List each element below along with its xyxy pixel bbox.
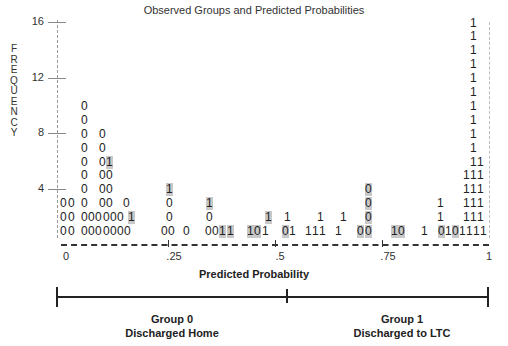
y-axis-label-letter: F	[9, 44, 19, 55]
group-0-symbol: 0	[206, 211, 214, 224]
x-tick-label-075: .75	[373, 250, 403, 262]
group-0-label: Group 0 Discharged Home	[72, 312, 272, 340]
y-axis-label-letter: U	[9, 86, 19, 97]
group-0-symbol: 0	[106, 197, 114, 210]
group-0-symbol: 0	[60, 225, 68, 238]
group-1-symbol: 1	[289, 225, 297, 238]
group-1-symbol: 1	[470, 100, 478, 113]
group-divider-line	[56, 296, 488, 298]
group-0-symbol: 0	[95, 225, 103, 238]
group-1-label: Group 1 Discharged to LTC	[302, 312, 502, 340]
group-0-symbol: 0	[81, 183, 89, 196]
group-0-symbol: 0	[365, 183, 373, 196]
group-1-symbol: 1	[284, 211, 292, 224]
group-0-subtitle: Discharged Home	[72, 326, 272, 340]
group-0-symbol: 0	[365, 211, 373, 224]
group-0-symbol: 0	[81, 114, 89, 127]
group-1-symbol: 1	[470, 114, 478, 127]
group-1-symbol: 1	[477, 197, 485, 210]
group-1-symbol: 1	[477, 169, 485, 182]
group-0-symbol: 0	[357, 225, 365, 238]
x-tick-label-1: 1	[474, 250, 504, 262]
group-1-symbol: 1	[317, 211, 325, 224]
group-0-title: Group 0	[72, 312, 272, 326]
x-axis-label: Predicted Probability	[0, 268, 508, 280]
group-0-symbol: 0	[183, 225, 191, 238]
group-1-symbol: 1	[421, 225, 429, 238]
x-tick-label-025: .25	[159, 250, 189, 262]
y-axis-line	[57, 20, 58, 238]
y-axis-label-letter: Y	[9, 128, 19, 139]
group-0-symbol: 0	[99, 128, 107, 141]
group-0-symbol: 0	[60, 197, 68, 210]
group-0-symbol: 0	[117, 211, 125, 224]
group-1-symbol: 1	[470, 86, 478, 99]
group-1-symbol: 1	[470, 128, 478, 141]
group-0-symbol: 0	[81, 128, 89, 141]
group-0-symbol: 0	[68, 225, 76, 238]
group-0-symbol: 0	[81, 142, 89, 155]
group-0-symbol: 0	[166, 197, 174, 210]
group-1-symbol: 1	[470, 30, 478, 43]
group-1-subtitle: Discharged to LTC	[302, 326, 502, 340]
y-tick-8	[48, 133, 66, 134]
group-1-symbol: 1	[106, 156, 114, 169]
group-0-symbol: 0	[166, 211, 174, 224]
group-0-symbol: 0	[60, 211, 68, 224]
x-tick-label-05: .5	[265, 250, 295, 262]
group-1-symbol: 1	[219, 225, 227, 238]
group-0-symbol: 0	[123, 197, 131, 210]
group-0-symbol: 0	[106, 169, 114, 182]
group-1-title: Group 1	[302, 312, 502, 326]
group-line-right-cap	[487, 287, 489, 307]
group-1-symbol: 1	[470, 58, 478, 71]
group-0-symbol: 0	[99, 142, 107, 155]
y-tick-16	[48, 22, 66, 23]
y-tick-label-8: 8	[24, 126, 44, 138]
group-1-symbol: 1	[477, 183, 485, 196]
y-tick-label-16: 16	[24, 15, 44, 27]
group-0-symbol: 0	[81, 156, 89, 169]
y-tick-label-12: 12	[24, 71, 44, 83]
y-axis-label-letter: N	[9, 107, 19, 118]
group-1-symbol: 1	[437, 197, 445, 210]
group-0-symbol: 0	[398, 225, 406, 238]
chart-title: Observed Groups and Predicted Probabilit…	[0, 4, 508, 16]
group-1-symbol: 1	[206, 197, 214, 210]
x-tick-label-0: 0	[51, 250, 81, 262]
group-1-symbol: 1	[470, 17, 478, 30]
group-0-symbol: 0	[81, 169, 89, 182]
y-axis-label: FREQUENCY	[9, 44, 19, 139]
x-tick-025	[168, 240, 169, 247]
group-1-symbol: 1	[477, 211, 485, 224]
group-1-symbol: 1	[437, 211, 445, 224]
x-tick-05	[275, 240, 276, 247]
group-0-symbol: 0	[365, 225, 373, 238]
group-1-symbol: 1	[480, 225, 488, 238]
group-1-symbol: 1	[470, 72, 478, 85]
group-0-symbol: 0	[254, 225, 262, 238]
x-tick-075	[382, 240, 383, 247]
group-0-symbol: 0	[106, 183, 114, 196]
group-1-symbol: 1	[166, 183, 174, 196]
group-0-symbol: 0	[365, 197, 373, 210]
group-1-symbol: 1	[340, 211, 348, 224]
group-0-symbol: 0	[68, 197, 76, 210]
group-0-symbol: 0	[81, 197, 89, 210]
group-1-symbol: 1	[262, 225, 270, 238]
group-0-symbol: 0	[68, 211, 76, 224]
y-tick-4	[48, 189, 66, 190]
group-1-symbol: 1	[227, 225, 235, 238]
group-1-symbol: 1	[470, 44, 478, 57]
y-tick-12	[48, 78, 66, 79]
group-line-mid-cap	[286, 289, 288, 303]
group-1-symbol: 1	[265, 211, 273, 224]
y-tick-label-4: 4	[24, 182, 44, 194]
group-line-left-cap	[56, 287, 58, 307]
group-1-symbol: 1	[128, 211, 136, 224]
group-1-symbol: 1	[335, 225, 343, 238]
group-1-symbol: 1	[477, 156, 485, 169]
group-1-symbol: 1	[470, 142, 478, 155]
group-0-symbol: 0	[124, 225, 132, 238]
group-0-symbol: 0	[95, 211, 103, 224]
